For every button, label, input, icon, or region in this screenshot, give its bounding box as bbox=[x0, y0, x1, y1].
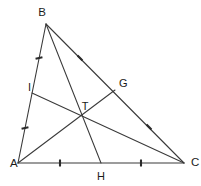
label-point-c: C bbox=[191, 156, 199, 168]
geometry-diagram: A B C G H I T bbox=[0, 0, 201, 186]
tick-BI bbox=[36, 57, 43, 58]
tick-GC bbox=[147, 125, 152, 130]
tick-BG bbox=[78, 56, 83, 61]
tick-IA bbox=[22, 127, 29, 128]
medians-group bbox=[18, 24, 184, 163]
label-point-t: T bbox=[82, 100, 89, 112]
point-labels-group: A B C G H I T bbox=[10, 6, 199, 182]
label-point-a: A bbox=[10, 157, 18, 169]
label-point-i: I bbox=[28, 81, 31, 93]
label-point-b: B bbox=[38, 6, 46, 18]
median-ag bbox=[18, 90, 115, 163]
triangle-sides bbox=[18, 24, 184, 163]
geometry-canvas: A B C G H I T bbox=[0, 0, 201, 186]
side-bc bbox=[46, 24, 184, 163]
label-point-h: H bbox=[97, 170, 105, 182]
label-point-g: G bbox=[119, 77, 128, 89]
median-ci bbox=[32, 93, 184, 163]
median-bh bbox=[46, 24, 101, 163]
